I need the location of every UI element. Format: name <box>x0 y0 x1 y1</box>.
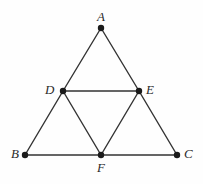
vertex-point-d <box>60 88 66 94</box>
vertex-point-a <box>98 25 104 31</box>
segment-EC <box>139 91 177 155</box>
segment-EF <box>101 91 139 155</box>
vertex-label-b: B <box>11 147 19 160</box>
figure-svg <box>0 0 203 184</box>
vertex-point-c <box>174 152 180 158</box>
segment-AE <box>101 28 139 91</box>
segment-DF <box>63 91 101 155</box>
vertex-label-f: F <box>97 161 105 174</box>
geometry-figure: ADEBCF <box>0 0 203 184</box>
vertex-label-e: E <box>146 83 154 96</box>
vertex-label-a: A <box>97 10 105 23</box>
segment-DB <box>25 91 63 155</box>
segment-AD <box>63 28 101 91</box>
vertex-label-d: D <box>45 83 54 96</box>
vertex-label-c: C <box>184 147 193 160</box>
vertex-point-e <box>136 88 142 94</box>
vertex-point-b <box>22 152 28 158</box>
vertex-point-f <box>98 152 104 158</box>
